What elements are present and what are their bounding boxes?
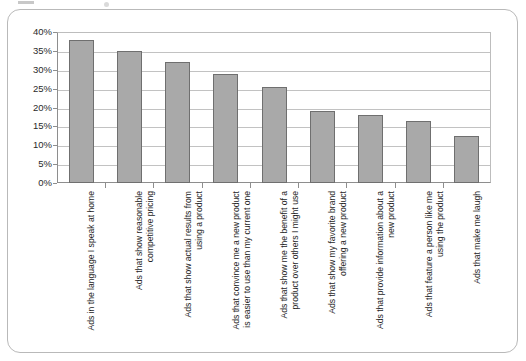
bar [165, 62, 190, 183]
x-axis-category-label: Ads that feature a person like me using … [424, 191, 445, 351]
bar [454, 136, 479, 183]
bar [69, 40, 94, 183]
y-axis-tick-label: 15% [33, 121, 52, 131]
x-axis-category-label: Ads that provide information about a new… [375, 191, 396, 351]
x-axis-tick-mark [298, 183, 299, 188]
x-axis-category-label: Ads that make me laugh [472, 191, 483, 351]
bar [262, 87, 287, 183]
x-axis-category-label: Ads in the language I speak at home [86, 191, 97, 351]
x-axis-category-label: Ads that show my favorite brand offering… [327, 191, 348, 351]
x-axis-category-label: Ads that show me the benefit of a produc… [279, 191, 300, 351]
x-axis-category-label: Ads that show reasonable competitive pri… [134, 191, 155, 351]
y-axis-tick-label: 10% [33, 140, 52, 150]
x-axis-tick-mark [202, 183, 203, 188]
x-axis-tick-mark [153, 183, 154, 188]
bar [117, 51, 142, 183]
y-axis-tick-label: 20% [33, 103, 52, 113]
x-axis-tick-mark [395, 183, 396, 188]
x-axis-category-label: Ads that convince me a new product is ea… [231, 191, 252, 351]
bar [406, 121, 431, 183]
x-axis-category-label: Ads that show actual results from using … [183, 191, 204, 351]
y-axis-tick-label: 0% [38, 178, 52, 188]
y-axis-tick-label: 25% [33, 84, 52, 94]
x-axis-tick-mark [443, 183, 444, 188]
bar [213, 74, 238, 183]
y-axis-tick-mark [53, 183, 57, 184]
bar [310, 111, 335, 183]
y-axis-tick-label: 30% [33, 65, 52, 75]
bar [358, 115, 383, 183]
y-axis-tick-label: 35% [33, 46, 52, 56]
x-axis-tick-mark [250, 183, 251, 188]
y-axis-tick-label: 5% [38, 159, 52, 169]
y-axis-tick-label: 40% [33, 27, 52, 37]
x-axis-tick-mark [346, 183, 347, 188]
bar-chart: 40%35%30%25%20%15%10%5%0% Ads in the lan… [0, 0, 526, 361]
x-axis-tick-mark [105, 183, 106, 188]
